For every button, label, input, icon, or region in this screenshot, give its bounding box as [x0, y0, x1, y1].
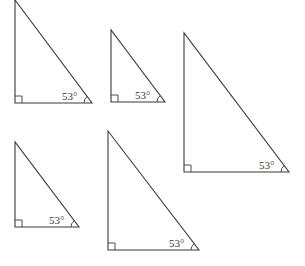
- right-angle-marker: [15, 96, 22, 103]
- angle-arc: [84, 97, 87, 103]
- triangle-t1: [15, 0, 92, 103]
- angle-label-t2: 53°: [135, 90, 150, 101]
- right-angle-marker: [108, 243, 115, 250]
- triangle-outline: [184, 33, 289, 172]
- triangle-outline: [108, 131, 199, 250]
- angle-label-t5: 53°: [169, 238, 184, 249]
- triangle-t5: [108, 131, 199, 250]
- angle-arc: [281, 166, 284, 172]
- right-angle-marker: [184, 165, 191, 172]
- angle-label-t3: 53°: [259, 160, 274, 171]
- right-angle-marker: [111, 95, 118, 102]
- angle-arc: [191, 244, 194, 250]
- right-angle-marker: [15, 220, 22, 227]
- triangles-svg: [0, 0, 305, 266]
- diagram-canvas: 53° 53° 53° 53° 53°: [0, 0, 305, 266]
- angle-arc: [71, 221, 74, 227]
- triangle-outline: [15, 0, 92, 103]
- angle-label-t1: 53°: [62, 91, 77, 102]
- triangle-t3: [184, 33, 289, 172]
- angle-arc: [157, 96, 160, 102]
- angle-label-t4: 53°: [49, 215, 64, 226]
- triangle-t4: [15, 142, 79, 227]
- triangle-outline: [15, 142, 79, 227]
